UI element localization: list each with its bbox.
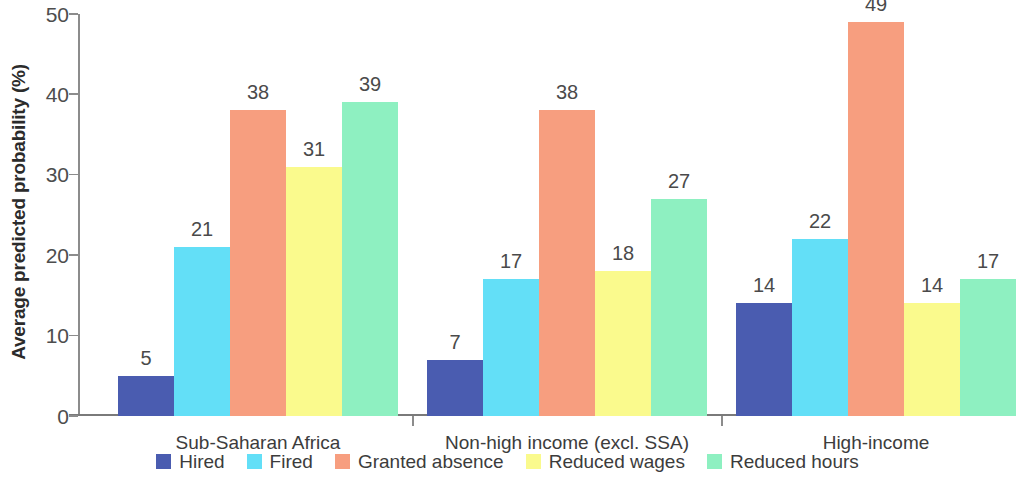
bar[interactable] (286, 167, 342, 416)
bar[interactable] (736, 303, 792, 416)
legend-swatch-icon (526, 454, 541, 469)
bar-value-label: 5 (118, 348, 174, 368)
bar-group: 521383139 (118, 14, 398, 416)
bar[interactable] (483, 279, 539, 416)
bar-value-label: 17 (483, 251, 539, 271)
legend-label: Hired (179, 452, 224, 471)
y-axis-tick-mark (69, 335, 78, 337)
bar[interactable] (539, 110, 595, 416)
legend-item[interactable]: Hired (156, 452, 224, 471)
y-axis-tick-mark (69, 13, 78, 15)
bar-value-label: 38 (539, 82, 595, 102)
bar[interactable] (595, 271, 651, 416)
legend-swatch-icon (707, 454, 722, 469)
bar-value-label: 22 (792, 211, 848, 231)
legend-label: Reduced wages (549, 452, 685, 471)
bar-column[interactable]: 38 (230, 14, 286, 416)
legend-label: Reduced hours (730, 452, 859, 471)
bar-value-label: 17 (960, 251, 1016, 271)
bar-group: 717381827 (427, 14, 707, 416)
bar-value-label: 38 (230, 82, 286, 102)
bar[interactable] (342, 102, 398, 416)
bar-column[interactable]: 14 (736, 14, 792, 416)
legend-item[interactable]: Reduced wages (526, 452, 685, 471)
y-axis-tick-mark (69, 254, 78, 256)
bar-value-label: 7 (427, 332, 483, 352)
bar-column[interactable]: 14 (904, 14, 960, 416)
bar-value-label: 18 (595, 243, 651, 263)
bar-column[interactable]: 38 (539, 14, 595, 416)
bars-layer: 5213831397173818271422491417 (78, 14, 1003, 416)
bar-value-label: 21 (174, 219, 230, 239)
bar-column[interactable]: 17 (483, 14, 539, 416)
bar-column[interactable]: 21 (174, 14, 230, 416)
bar-column[interactable]: 49 (848, 14, 904, 416)
x-axis-group-separator (412, 416, 414, 426)
bar-column[interactable]: 27 (651, 14, 707, 416)
legend-swatch-icon (247, 454, 262, 469)
bar-column[interactable]: 7 (427, 14, 483, 416)
bar[interactable] (848, 22, 904, 416)
y-axis-tick-mark (69, 415, 78, 417)
chart-legend: HiredFiredGranted absenceReduced wagesRe… (0, 452, 1015, 471)
bar[interactable] (651, 199, 707, 416)
bar[interactable] (792, 239, 848, 416)
bar[interactable] (904, 303, 960, 416)
legend-item[interactable]: Fired (247, 452, 313, 471)
y-axis-title: Average predicted probability (%) (2, 2, 36, 422)
y-axis-tick-mark (69, 174, 78, 176)
bar[interactable] (230, 110, 286, 416)
bar[interactable] (118, 376, 174, 416)
x-axis-group-separator (721, 416, 723, 426)
bar[interactable] (427, 360, 483, 416)
bar[interactable] (960, 279, 1016, 416)
bar-value-label: 49 (848, 0, 904, 14)
bar[interactable] (174, 247, 230, 416)
bar-value-label: 31 (286, 139, 342, 159)
bar-column[interactable]: 5 (118, 14, 174, 416)
bar-value-label: 39 (342, 74, 398, 94)
bar-column[interactable]: 22 (792, 14, 848, 416)
legend-item[interactable]: Reduced hours (707, 452, 859, 471)
bar-column[interactable]: 18 (595, 14, 651, 416)
legend-swatch-icon (335, 454, 350, 469)
bar-group: 1422491417 (736, 14, 1016, 416)
bar-value-label: 27 (651, 171, 707, 191)
legend-item[interactable]: Granted absence (335, 452, 504, 471)
legend-swatch-icon (156, 454, 171, 469)
plot-area: 01020304050 5213831397173818271422491417… (78, 14, 1003, 416)
bar-value-label: 14 (736, 275, 792, 295)
bar-column[interactable]: 17 (960, 14, 1016, 416)
y-axis-tick-mark (69, 93, 78, 95)
legend-label: Granted absence (358, 452, 504, 471)
bar-value-label: 14 (904, 275, 960, 295)
bar-column[interactable]: 31 (286, 14, 342, 416)
legend-label: Fired (270, 452, 313, 471)
bar-column[interactable]: 39 (342, 14, 398, 416)
